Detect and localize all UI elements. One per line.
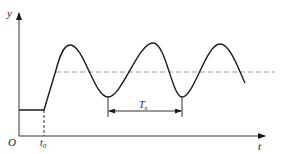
period-label: Ts — [139, 99, 148, 112]
t0-label-sub: 0 — [43, 142, 47, 150]
origin-label: O — [8, 136, 16, 148]
response-curve — [19, 43, 245, 110]
period-label-sub: s — [145, 104, 148, 112]
x-axis-label: t — [258, 140, 262, 152]
y-axis-label: y — [6, 7, 12, 19]
t0-label: t0 — [40, 137, 47, 150]
oscillation-diagram: y t O t0 Ts — [0, 0, 281, 154]
